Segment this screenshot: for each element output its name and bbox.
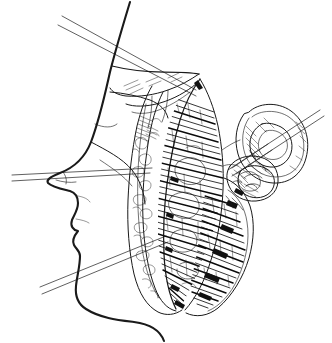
illustration-canvas: Lateral head profile with lateral facial… xyxy=(0,0,332,343)
figure-background xyxy=(0,0,332,343)
anatomical-figure: Lateral head profile with lateral facial… xyxy=(0,0,332,343)
